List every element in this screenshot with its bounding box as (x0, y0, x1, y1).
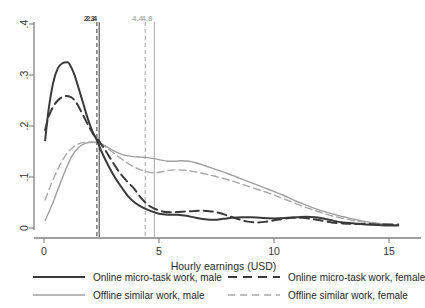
series-line-online_female (45, 96, 398, 225)
legend-label-1: Online micro-task work, female (288, 272, 425, 283)
density-plot: 0.1.2.3.4051015 Hourly earnings (USD) 2.… (0, 0, 425, 308)
chart-container: 0.1.2.3.4051015 Hourly earnings (USD) 2.… (0, 0, 425, 308)
x-tick-label: 15 (383, 245, 395, 257)
y-tick-label: .1 (18, 172, 30, 181)
legend-label-2: Offline similar work, male (93, 290, 205, 301)
reference-lines (97, 22, 154, 237)
legend-label-3: Offline similar work, female (288, 290, 408, 301)
reference-line-label-4.8: 4.8 (141, 14, 153, 23)
y-tick-label: 0 (18, 225, 30, 231)
x-axis-title: Hourly earnings (USD) (171, 260, 277, 272)
legend: Online micro-task work, maleOnline micro… (33, 272, 425, 301)
x-tick-label: 10 (268, 245, 280, 257)
x-tick-label: 5 (156, 245, 162, 257)
reference-line-labels: 2.32.44.44.8 (84, 14, 153, 23)
y-tick-label: .2 (18, 121, 30, 130)
axis-labels: Hourly earnings (USD) (171, 260, 277, 272)
reference-line-label-2.4: 2.4 (86, 14, 98, 23)
x-tick-label: 0 (41, 245, 47, 257)
y-tick-label: .4 (18, 19, 30, 28)
series-lines (45, 62, 398, 225)
legend-label-0: Online micro-task work, male (93, 272, 222, 283)
y-tick-label: .3 (18, 70, 30, 79)
series-line-online_male (45, 62, 398, 225)
